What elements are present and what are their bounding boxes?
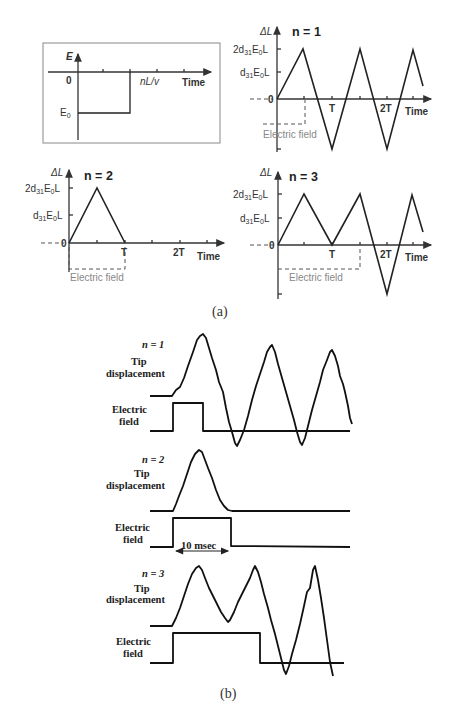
m3-field-trace xyxy=(150,633,344,663)
m3-tip-label-2: displacement xyxy=(106,594,165,605)
n2-ticks xyxy=(69,188,207,243)
n1-origin: 0 xyxy=(268,94,274,105)
n3-xtick-2T: 2T xyxy=(380,249,392,260)
n2-displacement-wave xyxy=(69,188,125,243)
n2-field-label: Electric field xyxy=(70,272,124,283)
n3-field-label: Electric field xyxy=(289,272,343,283)
n2-field-dash xyxy=(69,247,125,269)
measured-n1: n = 1 Tip displacement Electric field xyxy=(106,334,352,446)
m1-field-label-2: field xyxy=(119,416,139,427)
m1-tip-label-1: Tip xyxy=(131,356,147,367)
n1-xtick-2T: 2T xyxy=(380,103,392,114)
n2-y-label: ΔL xyxy=(50,167,63,178)
n1-ytick-1: d31E0L xyxy=(240,67,270,79)
m1-field-label-1: Electric xyxy=(112,404,147,415)
m1-tip-label-2: displacement xyxy=(106,368,165,379)
m2-duration-label: 10 msec xyxy=(181,540,217,551)
m2-field-trace xyxy=(150,518,350,547)
theory-plot-n1: ΔL n = 1 2d31E0L d31E0L 0 T 2T Time Elec… xyxy=(233,25,431,152)
inset-origin: 0 xyxy=(66,75,72,86)
n2-xtick-2T: 2T xyxy=(173,247,185,258)
m1-tip-trace xyxy=(150,334,352,446)
m3-field-label-2: field xyxy=(123,648,143,659)
n3-y-label: ΔL xyxy=(259,167,272,178)
theory-plot-n3: ΔL n = 3 2d31E0L d31E0L 0 T 2T Time Elec… xyxy=(233,167,431,299)
m2-tip-label-2: displacement xyxy=(106,480,165,491)
measured-n3: n = 3 Tip displacement Electric field xyxy=(106,566,344,676)
inset-field-plot: E 0 nL/v Time E0 xyxy=(43,43,220,143)
n3-x-label: Time xyxy=(405,252,429,263)
theory-plot-n2: ΔL n = 2 2d31E0L d31E0L 0 T 2T Time Elec… xyxy=(25,167,224,283)
n3-xtick-T: T xyxy=(329,249,335,260)
m2-tip-label-1: Tip xyxy=(134,468,150,479)
inset-level-label: E0 xyxy=(60,107,71,119)
m2-field-label-1: Electric xyxy=(115,522,150,533)
m2-tip-trace xyxy=(150,450,350,511)
caption-a: (a) xyxy=(212,304,228,320)
m3-title: n = 3 xyxy=(142,568,164,579)
inset-field-pulse xyxy=(78,72,130,113)
inset-step-label: nL/v xyxy=(140,76,160,87)
inset-y-label: E xyxy=(66,51,73,62)
n1-xtick-T: T xyxy=(329,103,335,114)
m3-field-label-1: Electric xyxy=(116,636,151,647)
m1-title: n = 1 xyxy=(142,339,164,350)
n3-field-dash xyxy=(278,247,360,269)
n1-field-label: Electric field xyxy=(263,129,317,140)
inset-x-label: Time xyxy=(182,77,206,88)
n3-ytick-2: 2d31E0L xyxy=(233,189,269,201)
n3-origin: 0 xyxy=(269,240,275,251)
n3-title: n = 3 xyxy=(289,170,318,184)
n2-origin: 0 xyxy=(61,238,67,249)
m3-tip-label-1: Tip xyxy=(134,583,150,594)
n2-xtick-T: T xyxy=(121,247,127,258)
m3-tip-trace xyxy=(150,566,333,676)
n2-ytick-1: d31E0L xyxy=(33,210,63,222)
n1-ytick-2: 2d31E0L xyxy=(233,44,269,56)
n3-ytick-1: d31E0L xyxy=(240,213,270,225)
n1-x-label: Time xyxy=(405,106,429,117)
n1-y-label: ΔL xyxy=(259,26,272,37)
n2-title: n = 2 xyxy=(84,169,113,183)
m2-field-label-2: field xyxy=(123,534,143,545)
n2-x-label: Time xyxy=(197,251,221,262)
caption-b: (b) xyxy=(220,686,237,702)
n2-ytick-2: 2d31E0L xyxy=(25,183,61,195)
m2-title: n = 2 xyxy=(142,454,165,465)
measured-n2: n = 2 Tip displacement Electric field 10… xyxy=(106,450,350,551)
figure-canvas: E 0 nL/v Time E0 ΔL n = 1 2d31E0L d31E0L… xyxy=(0,0,453,714)
n1-title: n = 1 xyxy=(292,25,321,39)
